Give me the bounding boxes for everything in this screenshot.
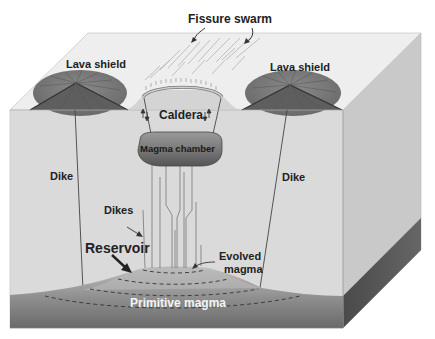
- label-dike-right: Dike: [282, 172, 305, 183]
- label-primitive-magma: Primitive magma: [130, 297, 226, 309]
- label-lava-shield-right: Lava shield: [270, 62, 330, 73]
- label-fissure-swarm: Fissure swarm: [188, 13, 272, 25]
- label-evolved-magma-line2: magma: [224, 264, 263, 275]
- label-magma-chamber: Magma chamber: [140, 144, 215, 154]
- volcano-block-diagram: Fissure swarm Lava shield Lava shield Ca…: [0, 0, 435, 339]
- label-evolved-magma-line1: Evolved: [219, 251, 261, 262]
- label-dikes: Dikes: [104, 205, 133, 216]
- label-lava-shield-left: Lava shield: [66, 59, 126, 70]
- label-caldera: Caldera: [159, 109, 203, 121]
- label-reservoir: Reservoir: [85, 241, 150, 255]
- label-dike-left: Dike: [50, 171, 73, 182]
